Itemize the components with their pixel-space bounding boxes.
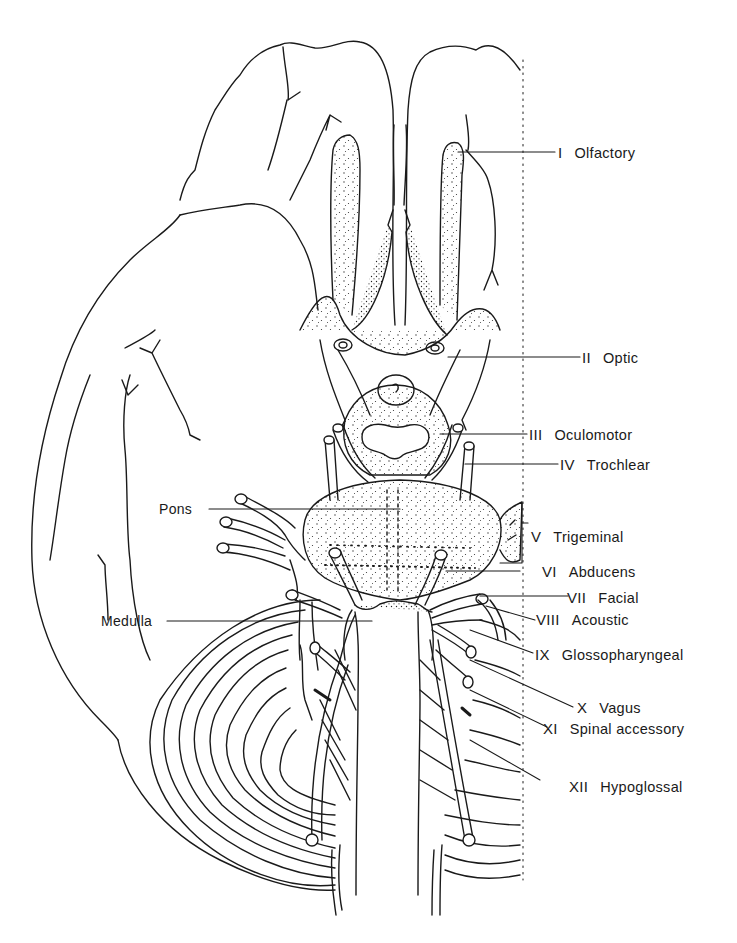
- label-facial: VIIFacial: [567, 590, 639, 606]
- left-cerebellum: [118, 600, 335, 890]
- cranial-nerves-diagram: IOlfactory IIOptic IIIOculomotor IVTroch…: [0, 0, 737, 943]
- olfactory-bulbs: [331, 125, 464, 320]
- medulla-drawing: [344, 601, 433, 895]
- label-medulla: Medulla: [101, 614, 152, 628]
- label-optic: IIOptic: [582, 350, 638, 366]
- label-trochlear: IVTrochlear: [560, 457, 650, 473]
- left-temporal-lobe: [32, 204, 318, 740]
- label-oculomotor: IIIOculomotor: [529, 427, 632, 443]
- label-hypoglossal: XIIHypoglossal: [569, 779, 683, 795]
- label-trigeminal: VTrigeminal: [531, 529, 623, 545]
- label-vagus: XVagus: [577, 700, 641, 716]
- left-frontal-lobe: [180, 41, 395, 325]
- label-acoustic: VIIIAcoustic: [536, 612, 629, 628]
- label-glossopharyngeal: IXGlossopharyngeal: [535, 647, 683, 663]
- label-spinal-accessory: XISpinal accessory: [543, 721, 684, 737]
- label-abducens: VIAbducens: [542, 564, 636, 580]
- pons-drawing: [303, 480, 501, 600]
- label-olfactory: IOlfactory: [558, 145, 635, 161]
- label-pons: Pons: [159, 502, 192, 516]
